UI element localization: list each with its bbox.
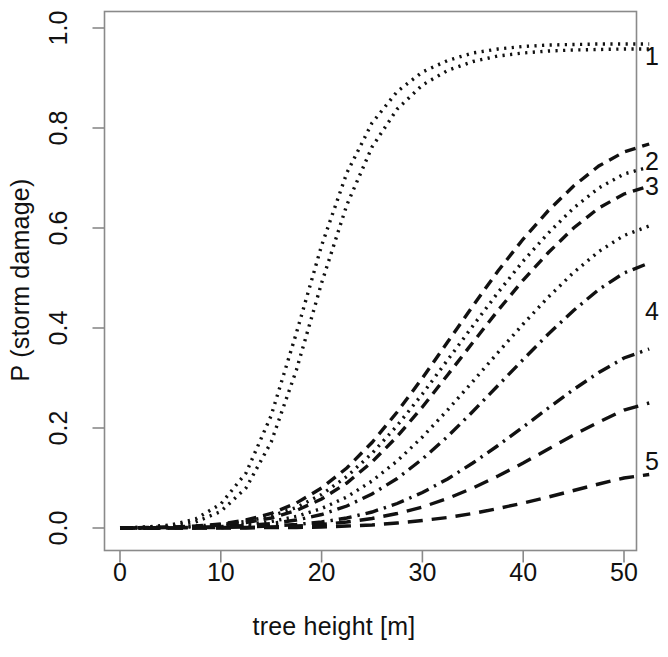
x-tick-label: 20: [287, 558, 357, 587]
curve-label-1: 1: [645, 43, 659, 69]
curve-1a: [120, 44, 649, 528]
curve-label-5: 5: [645, 448, 659, 474]
curve-3a: [120, 167, 649, 528]
curve-5b: [120, 475, 649, 529]
curve-1b: [120, 49, 649, 528]
x-tick-label: 10: [186, 558, 256, 587]
chart-figure: tree height [m] P (storm damage) 0102030…: [0, 0, 668, 657]
y-tick-label: 0.0: [43, 498, 73, 558]
y-tick-label: 0.8: [43, 98, 73, 158]
curve-2: [120, 144, 649, 528]
y-tick-label: 1.0: [43, 0, 73, 58]
x-tick-label: 30: [387, 558, 457, 587]
y-tick-label: 0.4: [43, 298, 73, 358]
curve-label-2: 2: [645, 148, 659, 174]
x-tick-label: 0: [85, 558, 155, 587]
x-tick-label: 50: [589, 558, 659, 587]
curve-3c: [120, 226, 649, 528]
curve-3b: [120, 186, 649, 528]
x-tick-label: 40: [488, 558, 558, 587]
data-curves: [120, 44, 649, 528]
plot-border: [105, 12, 637, 551]
x-axis-title: tree height [m]: [0, 612, 668, 641]
curve-4a: [120, 263, 649, 528]
curve-label-3: 3: [645, 173, 659, 199]
y-tick-label: 0.2: [43, 398, 73, 458]
y-axis-title: P (storm damage): [0, 0, 40, 560]
y-axis-ticks: [93, 28, 105, 528]
curve-label-4: 4: [645, 298, 659, 324]
y-tick-label: 0.6: [43, 198, 73, 258]
